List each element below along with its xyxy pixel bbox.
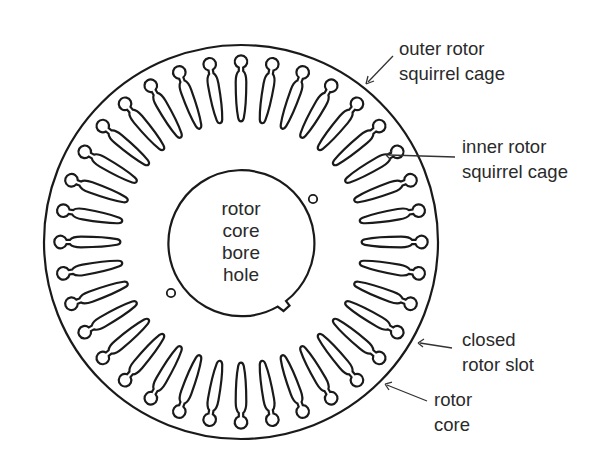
rotor-slot bbox=[362, 236, 428, 249]
rotor-slot bbox=[116, 330, 168, 389]
bore-hole-label: rotor core bore hole bbox=[191, 198, 291, 286]
leader-outer-cage bbox=[368, 56, 393, 82]
rotor-slot bbox=[54, 236, 120, 249]
rotor-slot bbox=[256, 57, 280, 124]
closed-slot-label-line-2: rotor slot bbox=[462, 352, 534, 377]
bore-label-line-4: hole bbox=[191, 264, 291, 286]
bore-label-line-2: core bbox=[191, 220, 291, 242]
rotor-core-label-line-2: core bbox=[434, 412, 472, 437]
leader-lines bbox=[366, 56, 455, 401]
rotor-slot bbox=[235, 363, 248, 429]
rotor-slot bbox=[329, 315, 388, 367]
rotor-core-label-line-1: rotor bbox=[434, 387, 472, 412]
rotor-slot bbox=[329, 117, 388, 169]
rotor-slot bbox=[94, 315, 153, 367]
balance-hole-right bbox=[309, 195, 317, 203]
outer-cage-label-line-1: outer rotor bbox=[399, 36, 505, 61]
bore-label-line-1: rotor bbox=[191, 198, 291, 220]
leader-closed-slot bbox=[420, 343, 452, 348]
outer-cage-label-line-2: squirrel cage bbox=[399, 61, 505, 86]
bore-label-line-3: bore bbox=[191, 242, 291, 264]
closed-slot-label: closed rotor slot bbox=[462, 327, 534, 377]
rotor-core-label: rotor core bbox=[434, 387, 472, 437]
inner-cage-label-line-1: inner rotor bbox=[462, 134, 568, 159]
rotor-slot bbox=[94, 117, 153, 169]
rotor-slot bbox=[202, 360, 226, 427]
rotor-slot bbox=[314, 95, 366, 154]
leader-inner-cage bbox=[389, 155, 455, 157]
rotor-slot bbox=[256, 360, 280, 427]
rotor-slot bbox=[56, 257, 123, 281]
rotor-slot bbox=[116, 95, 168, 154]
rotor-slot bbox=[314, 330, 366, 389]
leader-rotor-core bbox=[387, 385, 427, 401]
balance-hole-left bbox=[167, 289, 175, 297]
closed-slot-label-line-1: closed bbox=[462, 327, 534, 352]
rotor-slot bbox=[235, 55, 248, 121]
rotor-diagram bbox=[0, 0, 612, 466]
rotor-slot bbox=[359, 257, 426, 281]
inner-cage-label-line-2: squirrel cage bbox=[462, 159, 568, 184]
rotor-slot bbox=[202, 57, 226, 124]
rotor-slot bbox=[56, 203, 123, 227]
inner-cage-label: inner rotor squirrel cage bbox=[462, 134, 568, 184]
outer-cage-label: outer rotor squirrel cage bbox=[399, 36, 505, 86]
rotor-slot bbox=[359, 203, 426, 227]
